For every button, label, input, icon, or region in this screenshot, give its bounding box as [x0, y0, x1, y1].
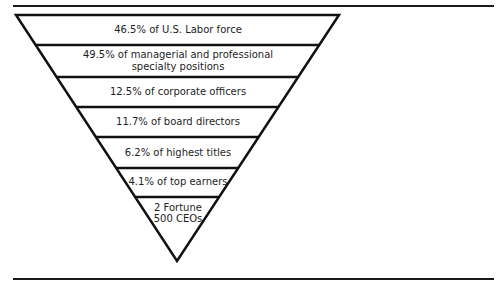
level-6-label: 4.1% of top earners — [129, 176, 228, 188]
inverted-pyramid — [0, 0, 498, 287]
level-5-label: 6.2% of highest titles — [125, 147, 231, 159]
level-7-text-line-2: 500 CEOs — [154, 213, 203, 224]
level-4-label: 11.7% of board directors — [116, 116, 240, 128]
level-4-text: 11.7% of board directors — [116, 116, 240, 127]
level-3-text: 12.5% of corporate officers — [110, 86, 246, 97]
level-2-text-line-2: specialty positions — [83, 61, 273, 73]
level-1-text: 46.5% of U.S. Labor force — [114, 24, 242, 35]
level-2-text-line-1: 49.5% of managerial and professional — [83, 49, 273, 61]
level-5-text: 6.2% of highest titles — [125, 147, 231, 158]
level-6-text: 4.1% of top earners — [129, 176, 228, 187]
level-1-label: 46.5% of U.S. Labor force — [114, 24, 242, 36]
bottom-rule — [13, 278, 494, 280]
level-7-label: 2 Fortune 500 CEOs — [154, 202, 203, 224]
level-7-text-line-1: 2 Fortune — [154, 202, 203, 213]
level-2-label: 49.5% of managerial and professional spe… — [83, 49, 273, 73]
level-3-label: 12.5% of corporate officers — [110, 86, 246, 98]
